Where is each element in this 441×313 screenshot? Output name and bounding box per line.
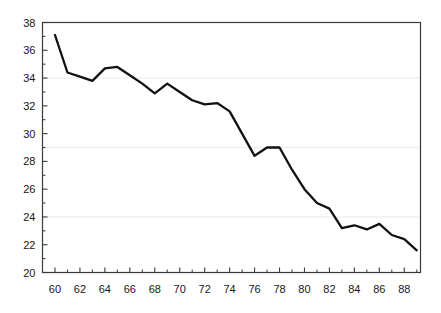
x-tick-label: 76 <box>248 283 260 295</box>
y-tick-label: 38 <box>23 17 35 29</box>
x-axis-tick-labels: 606264666870727476788082848688 <box>49 283 411 295</box>
x-tick-label: 62 <box>74 283 86 295</box>
x-tick-label: 72 <box>199 283 211 295</box>
y-tick-label: 28 <box>23 155 35 167</box>
x-tick-label: 86 <box>373 283 385 295</box>
y-tick-label: 36 <box>23 44 35 56</box>
y-tick-label: 26 <box>23 183 35 195</box>
y-tick-label: 32 <box>23 100 35 112</box>
y-tick-label: 34 <box>23 72 35 84</box>
x-tick-label: 84 <box>348 283 360 295</box>
x-tick-label: 88 <box>398 283 410 295</box>
y-tick-label: 24 <box>23 211 35 223</box>
x-tick-label: 74 <box>224 283 236 295</box>
chart-background <box>0 0 441 313</box>
x-tick-label: 60 <box>49 283 61 295</box>
x-tick-label: 68 <box>149 283 161 295</box>
y-tick-label: 22 <box>23 239 35 251</box>
x-tick-label: 78 <box>273 283 285 295</box>
x-tick-label: 80 <box>298 283 310 295</box>
x-tick-label: 70 <box>174 283 186 295</box>
line-chart: 20222426283032343638 6062646668707274767… <box>0 0 441 313</box>
x-tick-label: 64 <box>99 283 111 295</box>
x-tick-label: 66 <box>124 283 136 295</box>
y-tick-label: 20 <box>23 267 35 279</box>
y-tick-label: 30 <box>23 128 35 140</box>
chart-container: 20222426283032343638 6062646668707274767… <box>0 0 441 313</box>
x-tick-label: 82 <box>323 283 335 295</box>
